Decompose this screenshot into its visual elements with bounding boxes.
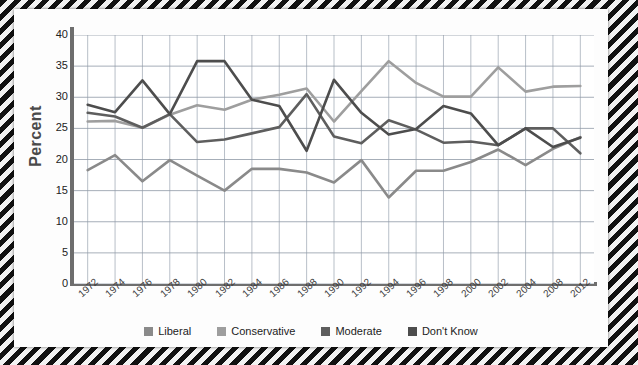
legend-swatch-icon [144,327,153,336]
y-axis-tick-label: 35 [42,60,68,71]
y-axis-tick-label: 25 [42,122,68,133]
y-axis-tick-label: 15 [42,185,68,196]
y-axis-tick-label: 20 [42,154,68,165]
chart-card: Percent 4035302520151050 197219741976197… [14,9,608,347]
legend-item[interactable]: Don't Know [408,325,478,337]
legend-label: Moderate [335,325,381,337]
y-axis-tick-label: 10 [42,216,68,227]
legend-swatch-icon [217,327,226,336]
chart-legend: LiberalConservativeModerateDon't Know [14,325,608,337]
striped-border-frame: Percent 4035302520151050 197219741976197… [0,0,638,365]
legend-label: Liberal [158,325,191,337]
series-lines [74,35,594,284]
legend-item[interactable]: Liberal [144,325,191,337]
series-line-liberal [88,137,581,197]
y-axis-tick-label: 40 [42,29,68,40]
legend-label: Conservative [231,325,295,337]
legend-item[interactable]: Moderate [321,325,381,337]
legend-label: Don't Know [422,325,478,337]
plot-area [74,35,594,284]
legend-item[interactable]: Conservative [217,325,295,337]
legend-swatch-icon [321,327,330,336]
y-axis-tick-label: 30 [42,91,68,102]
y-axis-tick-labels: 4035302520151050 [38,9,68,347]
y-axis-tick-label: 0 [42,278,68,289]
y-axis-tick-label: 5 [42,247,68,258]
legend-swatch-icon [408,327,417,336]
